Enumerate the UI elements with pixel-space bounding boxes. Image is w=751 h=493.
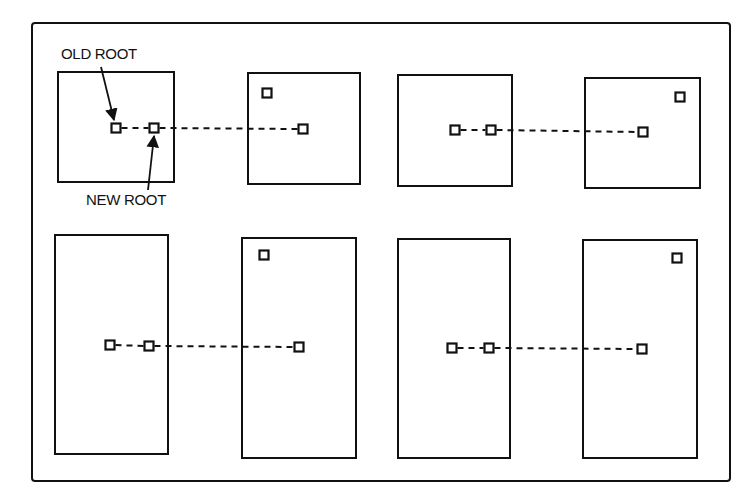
corner-3-node	[260, 251, 269, 260]
new-root-4-node	[485, 344, 494, 353]
new-root-3-node	[145, 342, 154, 351]
target-1-node	[299, 125, 308, 134]
target-2-node	[639, 128, 648, 137]
links-group	[116, 128, 638, 349]
old-root-label: OLD ROOT	[61, 45, 137, 62]
old-root-1-node	[112, 124, 121, 133]
dashed-pointer-line	[116, 345, 144, 346]
new-root-label: NEW ROOT	[86, 191, 166, 208]
old-root-3-node	[106, 341, 115, 350]
target-3-node	[295, 343, 304, 352]
corner-4-node	[673, 254, 682, 263]
new-root-1-node	[150, 124, 159, 133]
tree-pages-diagram: OLD ROOT NEW ROOT	[0, 0, 751, 493]
corner-1-node	[263, 89, 272, 98]
corner-2-node	[676, 93, 685, 102]
new-root-2-node	[487, 126, 496, 135]
target-4-node	[638, 345, 647, 354]
old-root-2-node	[451, 126, 460, 135]
old-root-4-node	[448, 344, 457, 353]
